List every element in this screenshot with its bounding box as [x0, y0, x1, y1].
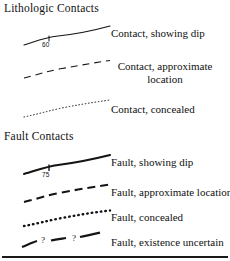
dip-value-60: 60 — [42, 41, 50, 48]
entry-label-fault-concealed: Fault, concealed — [111, 211, 183, 224]
question-mark-2: ? — [72, 233, 76, 243]
entry-label-contact-showing-dip: Contact, showing dip — [111, 27, 205, 40]
question-mark-1: ? — [41, 235, 45, 245]
symbol-contact-concealed — [22, 98, 114, 120]
geologic-map-legend: Lithologic Contacts 60 Contact, showing … — [0, 0, 230, 261]
symbol-fault-approximate-location — [22, 183, 114, 205]
symbol-contact-approximate-location — [22, 59, 114, 81]
symbol-contact-showing-dip — [22, 24, 114, 48]
entry-label-fault-existence-uncertain: Fault, existence uncertain — [111, 236, 224, 249]
symbol-fault-concealed — [22, 208, 114, 230]
symbol-fault-existence-uncertain — [20, 231, 114, 251]
section-header-fault-contacts: Fault Contacts — [4, 130, 74, 142]
symbol-fault-showing-dip — [22, 153, 114, 177]
dip-value-75: 75 — [42, 171, 50, 178]
entry-label-fault-approximate-location: Fault, approximate location — [111, 186, 230, 199]
entry-label-contact-approximate-location: Contact, approximate location — [111, 60, 219, 86]
legend-bottom-rule — [2, 256, 228, 258]
entry-label-fault-showing-dip: Fault, showing dip — [111, 156, 193, 169]
section-header-lithologic-contacts: Lithologic Contacts — [4, 2, 99, 14]
entry-label-contact-concealed: Contact, concealed — [111, 103, 195, 116]
